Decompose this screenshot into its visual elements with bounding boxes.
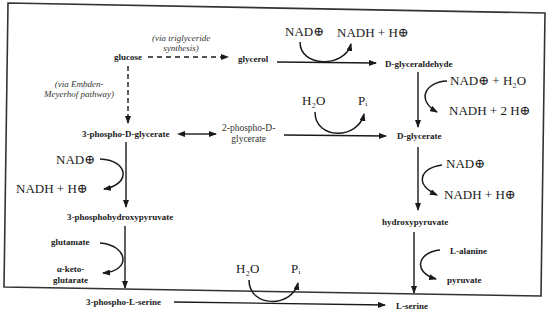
node-l-serine: L-serine — [396, 302, 428, 311]
cofactor-l-alanine-in: L-alanine — [450, 247, 487, 256]
cofactor-pi-out-2: Pᵢ — [291, 262, 300, 275]
node-glucose: glucose — [114, 53, 142, 62]
node-glycerol: glycerol — [238, 55, 268, 64]
node-d-glycerate: D-glycerate — [397, 132, 441, 141]
cofactor-alpha-ketoglutarate-out: α-keto- glutarate — [53, 264, 88, 287]
cofactor-pyruvate-out: pyruvate — [447, 276, 482, 285]
pathway-diagram: (via triglyceride synthesis) (via Embden… — [0, 0, 549, 321]
triglyceride-note: (via triglyceride synthesis) — [152, 33, 210, 54]
alpha-keto-line1: α-keto- — [53, 264, 88, 275]
embden-note-line2: Meyerhof pathway) — [44, 89, 114, 99]
node-3-phosphohydroxypyruvate: 3-phosphohydroxypyruvate — [67, 213, 173, 222]
triglyceride-note-line1: (via triglyceride — [152, 33, 210, 43]
node-d-glyceraldehyde: D-glyceraldehyde — [385, 60, 453, 69]
cofactor-h2o-in-1: H₂O — [302, 94, 325, 107]
cofactor-nad-in-2: NAD⊕ — [446, 157, 485, 170]
node-2-phospho-d-glycerate: 2-phospho-D- glycerate — [222, 123, 275, 145]
cofactor-glutamate-in: glutamate — [51, 238, 90, 247]
node-hydroxypyruvate: hydroxypyruvate — [382, 218, 448, 227]
triglyceride-note-line2: synthesis) — [152, 43, 210, 53]
alpha-keto-line2: glutarate — [53, 275, 88, 286]
embden-meyerhof-note: (via Embden- Meyerhof pathway) — [44, 79, 114, 100]
cofactor-nad-h2o-in: NAD⊕ + H₂O — [450, 74, 526, 87]
cofactor-nadh-2h-out: NADH + 2 H⊕ — [449, 104, 530, 117]
cofactor-nad-in-3: NAD⊕ — [56, 153, 95, 166]
cofactor-nadh-out-3: NADH + H⊕ — [16, 182, 88, 195]
cofactor-nadh-out-2: NADH + H⊕ — [444, 188, 516, 201]
node-2-phospho-line2: glycerate — [222, 134, 275, 145]
node-3-phospho-d-glycerate: 3-phospho-D-glycerate — [82, 130, 170, 139]
cofactor-pi-out-1: Pᵢ — [358, 94, 367, 107]
node-2-phospho-line1: 2-phospho-D- — [222, 123, 275, 134]
embden-note-line1: (via Embden- — [44, 79, 114, 89]
node-3-phospho-l-serine: 3-phospho-L-serine — [86, 298, 161, 307]
cofactor-nadh-out-1: NADH + H⊕ — [337, 26, 409, 39]
cofactor-nad-in-1: NAD⊕ — [285, 25, 324, 38]
cofactor-h2o-in-2: H₂O — [236, 262, 259, 275]
